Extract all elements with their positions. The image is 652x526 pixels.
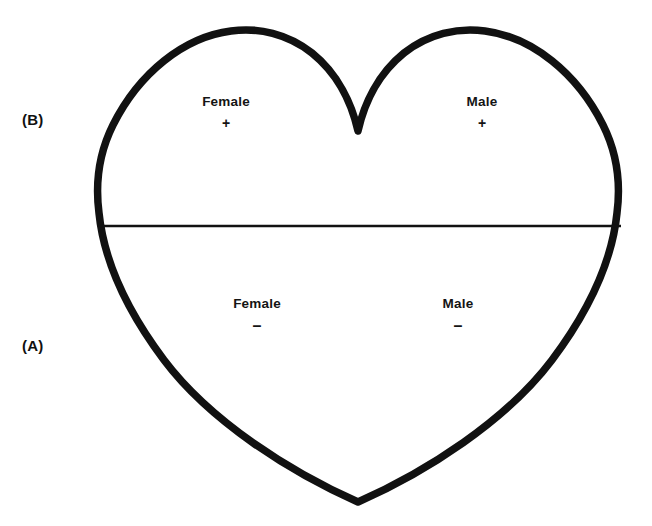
region-label-male-minus: Male – — [443, 296, 474, 333]
region-name-female-minus: Female — [233, 296, 281, 311]
region-sign-female-minus: – — [233, 319, 281, 333]
region-sign-male-plus: + — [467, 115, 498, 131]
region-name-male-plus: Male — [467, 94, 498, 109]
region-label-female-minus: Female – — [233, 296, 281, 333]
heart-outline-path — [98, 30, 619, 502]
region-name-female-plus: Female — [202, 94, 250, 109]
region-name-male-minus: Male — [443, 296, 474, 311]
region-label-female-plus: Female + — [202, 94, 250, 131]
region-sign-male-minus: – — [443, 319, 474, 333]
region-sign-female-plus: + — [202, 115, 250, 131]
panel-label-a: (A) — [22, 337, 43, 354]
heart-diagram-figure: (B) (A) Female + Male + Female – Male – — [0, 0, 652, 526]
panel-label-b: (B) — [22, 111, 43, 128]
region-label-male-plus: Male + — [467, 94, 498, 131]
heart-outline-svg — [0, 0, 652, 526]
